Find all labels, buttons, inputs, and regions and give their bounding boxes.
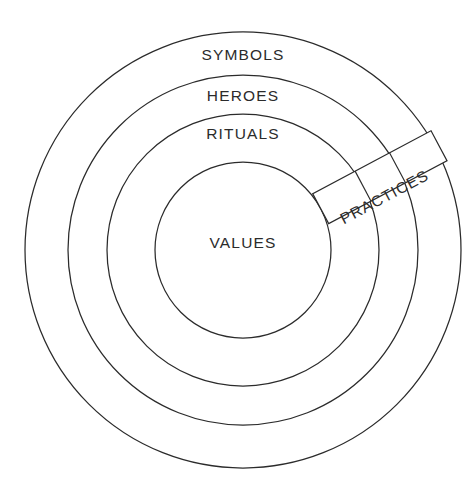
onion-diagram: SYMBOLS HEROES RITUALS VALUES PRACTICES: [0, 0, 473, 489]
ring-label-values: VALUES: [210, 234, 277, 251]
ring-label-rituals: RITUALS: [206, 125, 280, 142]
onion-diagram-canvas: SYMBOLS HEROES RITUALS VALUES PRACTICES: [0, 0, 473, 489]
ring-label-symbols: SYMBOLS: [202, 46, 285, 63]
ring-label-heroes: HEROES: [207, 87, 279, 104]
